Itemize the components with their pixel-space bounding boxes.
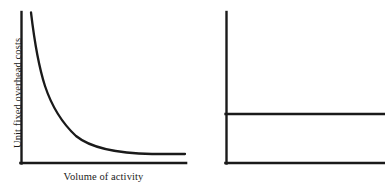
y-axis-label-fixed-overhead: Unit fixed overhead costs: [13, 38, 24, 148]
chart-panel-fixed-overhead: Unit fixed overhead costs Volume of acti…: [0, 0, 193, 193]
fixed-overhead-plot: [0, 0, 193, 193]
x-axis-label-volume-of-activity-fixed: Volume of activity: [21, 172, 186, 183]
fixed-overhead-curve: [31, 13, 185, 155]
cost-behaviour-figure: Unit fixed overhead costs Volume of acti…: [0, 0, 385, 193]
variable-overhead-plot: [192, 0, 385, 193]
chart-panel-variable-overhead: Unit variable overhead costs Volume of a…: [192, 0, 385, 193]
